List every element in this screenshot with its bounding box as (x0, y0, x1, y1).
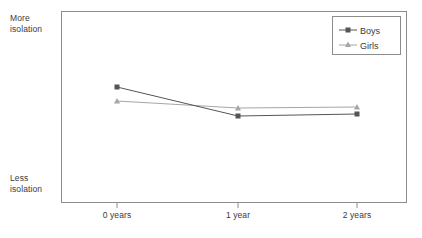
legend-marker-boys-square (346, 28, 351, 33)
data-point-boys-1 (236, 114, 241, 119)
line-chart-figure: More isolation Less isolation 0 years 1 … (0, 0, 422, 238)
legend-label-girls: Girls (360, 41, 379, 51)
chart-legend: Boys Girls (333, 17, 401, 55)
data-point-boys-2 (355, 112, 360, 117)
data-point-boys-0 (115, 85, 120, 90)
chart-plot-area: Boys Girls (0, 0, 422, 238)
legend-label-boys: Boys (360, 26, 381, 36)
